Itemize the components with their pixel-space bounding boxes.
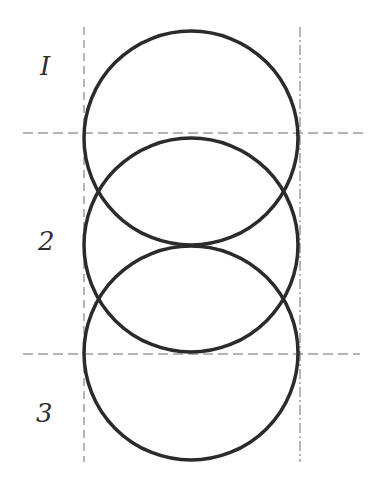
diagram-canvas [0, 0, 384, 493]
zone-label-3: 3 [36, 400, 53, 426]
zone-label-2: 2 [38, 228, 55, 254]
zone-label-1: I [40, 53, 50, 79]
